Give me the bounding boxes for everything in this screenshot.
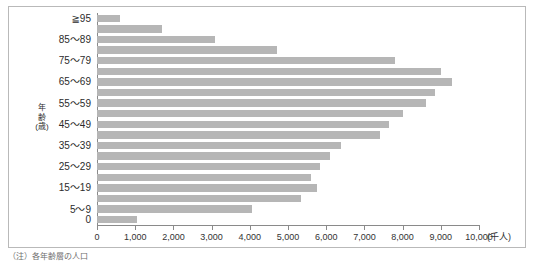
x-axis-tick <box>403 226 404 230</box>
bar <box>97 110 403 117</box>
x-axis-tick <box>212 226 213 230</box>
y-axis-tick-label: 15～19 <box>59 182 91 193</box>
bar <box>97 15 120 22</box>
bar <box>97 57 395 64</box>
bar <box>97 131 380 138</box>
y-axis-tick-label: 55～59 <box>59 98 91 109</box>
bar-row <box>97 87 479 98</box>
x-axis-tick <box>97 226 98 230</box>
y-axis-tick-label: 25～29 <box>59 161 91 172</box>
bar <box>97 195 301 202</box>
x-axis-tick <box>250 226 251 230</box>
x-axis-tick-label: 0 <box>94 231 99 243</box>
y-axis-tick-label: 85～89 <box>59 34 91 45</box>
x-axis-unit-label: (千人) <box>487 231 511 243</box>
bar-row <box>97 119 479 130</box>
bar-row <box>97 151 479 162</box>
bar-row <box>97 204 479 215</box>
y-axis-tick-label: 45～49 <box>59 119 91 130</box>
bar <box>97 36 215 43</box>
y-axis-tick-label: 65～69 <box>59 76 91 87</box>
y-axis-tick-label: 75～79 <box>59 55 91 66</box>
bar <box>97 184 317 191</box>
x-axis-tick <box>173 226 174 230</box>
bar-row <box>97 130 479 141</box>
x-axis-tick-label: 9,000 <box>430 231 453 243</box>
bar-row <box>97 108 479 119</box>
bar <box>97 68 441 75</box>
x-axis-tick-label: 1,000 <box>124 231 147 243</box>
bar <box>97 78 452 85</box>
bar-row <box>97 77 479 88</box>
bar <box>97 46 277 53</box>
bar-row <box>97 55 479 66</box>
x-axis-ticks <box>97 226 480 230</box>
x-axis-tick-label: 4,000 <box>239 231 262 243</box>
bar-row <box>97 34 479 45</box>
figure-caption: （注）各年齢層の人口 <box>8 252 88 262</box>
bar <box>97 216 137 223</box>
bar-row <box>97 66 479 77</box>
x-axis-tick <box>364 226 365 230</box>
bar <box>97 142 341 149</box>
x-axis-tick <box>479 226 480 230</box>
y-axis-tick-label: 5～9 <box>70 204 91 215</box>
x-axis-tick-label: 8,000 <box>391 231 414 243</box>
y-axis-tick-labels: ≧9585～8975～7965～6955～5945～4935～3925～2915… <box>9 13 95 225</box>
x-axis-tick-label: 7,000 <box>353 231 376 243</box>
bar <box>97 205 252 212</box>
x-axis-tick-label: 3,000 <box>200 231 223 243</box>
x-axis-tick-label: 6,000 <box>315 231 338 243</box>
x-axis-tick-labels: 01,0002,0003,0004,0005,0006,0007,0008,00… <box>9 231 527 245</box>
y-axis-tick-label: 0 <box>85 214 91 225</box>
x-axis-tick <box>441 226 442 230</box>
bar-row <box>97 13 479 24</box>
plot-area <box>97 13 479 225</box>
bar <box>97 121 389 128</box>
x-axis-tick <box>135 226 136 230</box>
bar-row <box>97 24 479 35</box>
bar-row <box>97 161 479 172</box>
bar <box>97 89 435 96</box>
bar <box>97 152 330 159</box>
bar <box>97 174 311 181</box>
x-axis-tick <box>288 226 289 230</box>
bar-row <box>97 214 479 225</box>
bar-row <box>97 98 479 109</box>
bar-row <box>97 140 479 151</box>
bar-row <box>97 172 479 183</box>
bar <box>97 25 162 32</box>
bar-row <box>97 183 479 194</box>
x-axis-tick-label: 2,000 <box>162 231 185 243</box>
y-axis-tick-label: 35～39 <box>59 140 91 151</box>
bar-row <box>97 45 479 56</box>
bar <box>97 163 320 170</box>
x-axis-tick <box>326 226 327 230</box>
bar-row <box>97 193 479 204</box>
x-axis-tick-label: 5,000 <box>277 231 300 243</box>
chart-frame: 年 齢 (歳) ≧9585～8975～7965～6955～5945～4935～3… <box>8 6 526 248</box>
y-axis-tick-label: ≧95 <box>71 13 91 24</box>
bar <box>97 99 426 106</box>
